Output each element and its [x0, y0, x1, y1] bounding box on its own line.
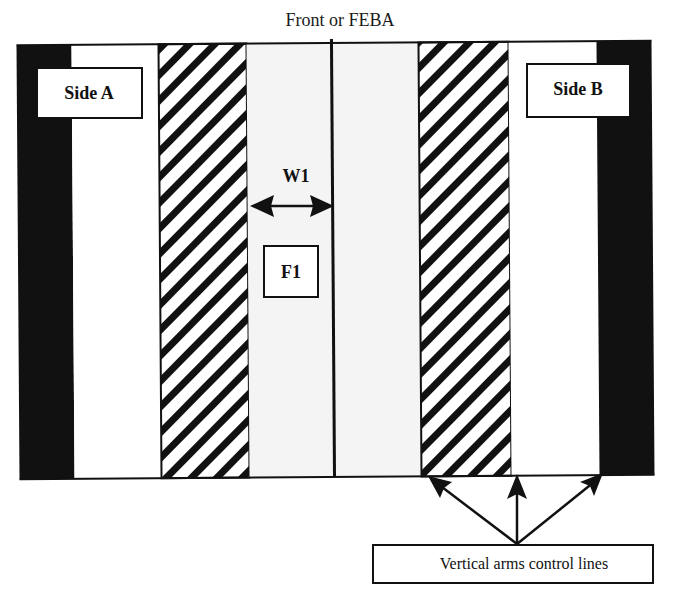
force-box: F1	[264, 246, 318, 297]
arrow-right-icon	[517, 473, 603, 544]
arrow-left-icon	[428, 476, 517, 544]
callout-arrows	[428, 473, 603, 544]
diagram-title: Front or FEBA	[285, 10, 394, 30]
side-a-box: Side A	[37, 68, 142, 118]
side-a-hatched-band	[158, 44, 249, 479]
side-b-label: Side B	[553, 79, 603, 99]
width-label: W1	[283, 166, 310, 186]
force-label: F1	[281, 262, 301, 282]
feba-diagram: Front or FEBA Side A Side B W1	[0, 0, 674, 598]
callout-box: Vertical arms control lines	[373, 545, 653, 583]
arrow-middle-icon	[507, 474, 527, 544]
callout-label: Vertical arms control lines	[440, 555, 608, 572]
side-a-label: Side A	[64, 83, 114, 103]
side-b-light-zone	[331, 42, 421, 477]
side-b-box: Side B	[527, 64, 630, 117]
side-b-hatched-band	[418, 42, 511, 477]
